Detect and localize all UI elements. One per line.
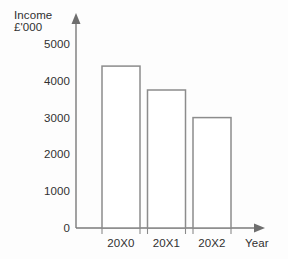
y-tick-label-4000: 4000 [44, 75, 70, 87]
y-axis-label-line2: £'000 [14, 21, 42, 33]
bar-20X0 [102, 66, 140, 228]
x-axis-label: Year [245, 237, 269, 249]
bar-20X2 [193, 118, 231, 228]
x-tick-label-20X0: 20X0 [107, 237, 134, 249]
bar-chart-figure: Income £'000 5000 4000 3000 2000 1000 0 … [0, 0, 288, 259]
chart-canvas: Income £'000 5000 4000 3000 2000 1000 0 … [0, 0, 288, 259]
x-axis-arrow-icon [254, 224, 265, 233]
y-axis-arrow-icon [72, 13, 81, 24]
y-tick-label-1000: 1000 [44, 185, 70, 197]
y-tick-label-5000: 5000 [44, 38, 70, 50]
x-tick-label-20X2: 20X2 [198, 237, 225, 249]
bar-20X1 [148, 90, 186, 228]
y-tick-label-2000: 2000 [44, 148, 70, 160]
y-axis-label-line1: Income [14, 9, 52, 21]
y-tick-label-0: 0 [64, 222, 71, 234]
x-tick-label-20X1: 20X1 [153, 237, 180, 249]
y-tick-label-3000: 3000 [44, 112, 70, 124]
